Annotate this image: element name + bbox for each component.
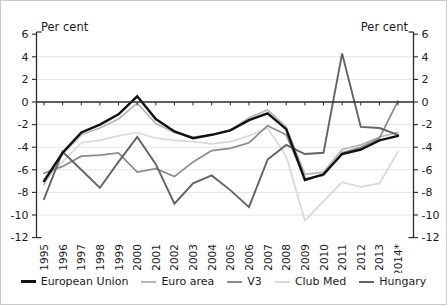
y-tick-label-left: -6 bbox=[18, 164, 29, 177]
y-tick-label-right: 0 bbox=[422, 96, 429, 109]
x-tick-label: 2000 bbox=[131, 244, 143, 271]
legend-swatch bbox=[141, 281, 156, 283]
x-tick-label: 2011 bbox=[336, 244, 348, 271]
series-line-club-med bbox=[44, 128, 398, 221]
chart: Per cent Per cent 6420-2-4-6-8-10-126420… bbox=[0, 0, 447, 305]
x-tick-label: 2004 bbox=[206, 244, 218, 271]
y-tick-label-right: -10 bbox=[422, 209, 440, 222]
y-tick-label-right: -2 bbox=[422, 118, 433, 131]
legend-label: Euro area bbox=[161, 275, 214, 288]
legend: European UnionEuro areaV3Club MedHungary bbox=[1, 275, 446, 288]
legend-item-european-union: European Union bbox=[21, 275, 129, 288]
axes bbox=[32, 32, 418, 238]
x-axis-labels: 1995199619971998199920002001200220032004… bbox=[38, 244, 404, 273]
x-tick-label: 2005 bbox=[224, 244, 236, 271]
x-tick-label: 1995 bbox=[38, 244, 50, 271]
x-tick-label: 1997 bbox=[75, 244, 87, 271]
y-tick-label-left: 4 bbox=[22, 51, 29, 64]
x-tick-label: 2002 bbox=[168, 244, 180, 271]
y-tick-label-left: 2 bbox=[22, 73, 29, 86]
x-tick-label: 2014* bbox=[392, 244, 404, 273]
x-tick-label: 1999 bbox=[113, 244, 125, 271]
series-line-euro-area bbox=[44, 103, 398, 184]
y-tick-label-left: -10 bbox=[11, 209, 29, 222]
y-tick-label-right: -12 bbox=[422, 231, 440, 244]
y-axis-labels-left: 6420-2-4-6-8-10-12 bbox=[11, 28, 29, 244]
legend-label: Club Med bbox=[295, 275, 346, 288]
y-tick-label-right: -8 bbox=[422, 186, 433, 199]
x-tick-label: 2001 bbox=[150, 244, 162, 271]
x-tick-label: 2006 bbox=[243, 244, 255, 271]
x-tick-label: 2007 bbox=[262, 244, 274, 271]
x-tick-label: 2003 bbox=[187, 244, 199, 271]
x-tick-label: 1998 bbox=[94, 244, 106, 271]
legend-item-v3: V3 bbox=[227, 275, 262, 288]
x-tick-label: 2012 bbox=[355, 244, 367, 271]
legend-label: V3 bbox=[247, 275, 262, 288]
series-line-european-union bbox=[44, 96, 398, 181]
series-line-hungary bbox=[44, 53, 398, 207]
y-tick-label-left: -8 bbox=[18, 186, 29, 199]
legend-swatch bbox=[21, 280, 36, 283]
y-tick-label-right: 6 bbox=[422, 28, 429, 41]
y-axis-labels-right: 6420-2-4-6-8-10-12 bbox=[422, 28, 440, 244]
y-tick-label-left: -2 bbox=[18, 118, 29, 131]
x-tick-label: 2009 bbox=[299, 244, 311, 271]
x-tick-label: 2010 bbox=[318, 244, 330, 271]
legend-swatch bbox=[227, 281, 242, 283]
y-tick-label-right: -4 bbox=[422, 141, 433, 154]
y-tick-label-right: -6 bbox=[422, 164, 433, 177]
y-tick-label-right: 4 bbox=[422, 51, 429, 64]
series-lines bbox=[44, 53, 398, 220]
plot-area: 6420-2-4-6-8-10-126420-2-4-6-8-10-121995… bbox=[1, 1, 446, 273]
legend-item-club-med: Club Med bbox=[275, 275, 346, 288]
legend-swatch bbox=[359, 281, 374, 283]
legend-label: Hungary bbox=[379, 275, 426, 288]
y-tick-label-left: -12 bbox=[11, 231, 29, 244]
x-tick-label: 2013 bbox=[373, 244, 385, 271]
y-tick-label-left: 0 bbox=[22, 96, 29, 109]
legend-swatch bbox=[275, 281, 290, 283]
series-line-v3 bbox=[44, 101, 398, 179]
x-tick-label: 1996 bbox=[57, 244, 69, 271]
y-tick-label-right: 2 bbox=[422, 73, 429, 86]
legend-item-euro-area: Euro area bbox=[141, 275, 214, 288]
legend-item-hungary: Hungary bbox=[359, 275, 426, 288]
gridlines bbox=[37, 57, 414, 215]
y-tick-label-left: 6 bbox=[22, 28, 29, 41]
y-tick-label-left: -4 bbox=[18, 141, 29, 154]
x-tick-label: 2008 bbox=[280, 244, 292, 271]
legend-label: European Union bbox=[41, 275, 129, 288]
